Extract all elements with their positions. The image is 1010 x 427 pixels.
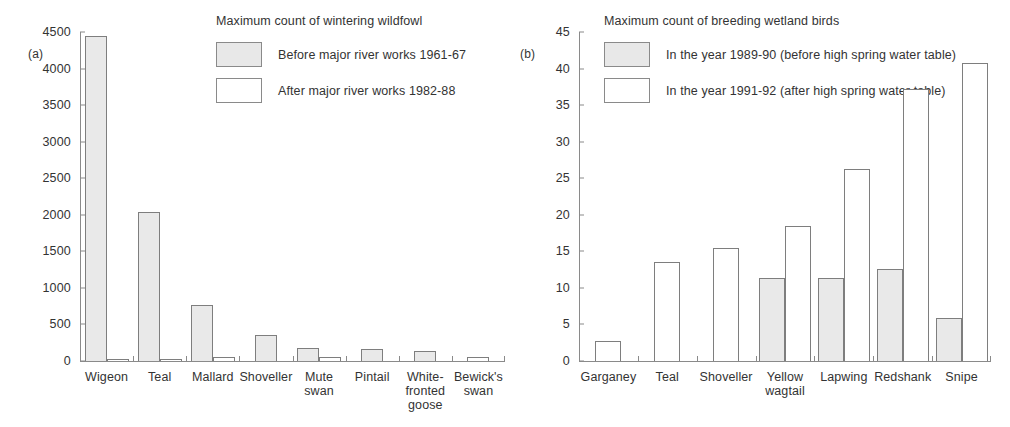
bar [903, 89, 929, 361]
y-axis-tick-label: 0 [64, 354, 80, 368]
x-axis-tick-mark [932, 356, 933, 362]
y-axis-tick-label: 20 [556, 208, 579, 222]
bar-group [697, 32, 756, 361]
y-axis-tick-mark [80, 68, 85, 69]
y-axis-tick-label: 2500 [42, 171, 80, 185]
y-axis-tick-label: 30 [556, 135, 579, 149]
x-axis-label-line: Bewick's [444, 370, 513, 384]
panel-letter-b: (b) [520, 47, 535, 61]
x-axis-tick-mark [293, 356, 294, 362]
bar-group [186, 32, 239, 361]
x-axis-label-line: swan [444, 384, 513, 398]
bar-group [399, 32, 452, 361]
x-axis-label-line: Snipe [924, 370, 999, 384]
chart-panel-a: (a) Maximum count of wintering wildfowl … [0, 0, 512, 427]
y-axis-tick-mark [80, 141, 85, 142]
bar [138, 212, 160, 361]
bar [877, 269, 903, 361]
y-axis-tick-mark [579, 287, 584, 288]
bar-group [579, 32, 638, 361]
y-axis-tick-mark [579, 178, 584, 179]
x-axis-tick-mark [80, 356, 81, 362]
x-axis-tick-mark [452, 356, 453, 362]
y-axis-tick-mark [579, 68, 584, 69]
y-axis-tick-mark [80, 287, 85, 288]
bar-group [873, 32, 932, 361]
y-axis-tick-label: 5 [563, 317, 579, 331]
bar [936, 318, 962, 361]
chart-title-b: Maximum count of breeding wetland birds [604, 14, 839, 28]
y-axis-tick-mark [579, 32, 584, 33]
y-axis-tick-label: 25 [556, 171, 579, 185]
bar-group-container-b [579, 32, 991, 361]
x-axis-label: Snipe [924, 370, 999, 384]
bar [255, 335, 277, 361]
y-axis-tick-mark [579, 251, 584, 252]
y-axis-tick-mark [579, 105, 584, 106]
y-axis-tick-mark [579, 214, 584, 215]
bar [297, 348, 319, 361]
x-axis-tick-mark [756, 356, 757, 362]
bar-group [452, 32, 505, 361]
bar [654, 262, 680, 361]
y-axis-tick-mark [80, 214, 85, 215]
chart-title-a: Maximum count of wintering wildfowl [216, 14, 422, 28]
x-axis-tick-mark [638, 356, 639, 362]
y-axis-tick-mark [80, 105, 85, 106]
x-axis-tick-mark [579, 356, 580, 362]
x-axis-label-line: swan [285, 384, 354, 398]
plot-area-a: 050010001500200025003000350040004500 [80, 32, 505, 362]
x-axis-b [579, 361, 991, 362]
bar [85, 36, 107, 361]
x-axis-tick-mark [399, 356, 400, 362]
y-axis-tick-label: 35 [556, 98, 579, 112]
x-axis-tick-mark [697, 356, 698, 362]
x-axis-tick-mark [186, 356, 187, 362]
x-axis-tick-mark [346, 356, 347, 362]
bar [467, 357, 489, 361]
panel-letter-a: (a) [28, 47, 43, 61]
bar [818, 278, 844, 361]
bar [785, 226, 811, 361]
bar [713, 248, 739, 361]
y-axis-tick-mark [579, 141, 584, 142]
y-axis-tick-mark [80, 324, 85, 325]
bar-group-container-a [80, 32, 505, 361]
x-axis-tick-mark [239, 356, 240, 362]
x-axis-tick-mark [133, 356, 134, 362]
bar-group [80, 32, 133, 361]
bar [844, 169, 870, 361]
y-axis-tick-mark [80, 178, 85, 179]
y-axis-tick-label: 2000 [42, 208, 80, 222]
y-axis-tick-label: 4000 [42, 62, 80, 76]
bar-group [133, 32, 186, 361]
x-axis-tick-mark [504, 356, 505, 362]
bar [107, 359, 129, 361]
x-axis-label-line: goose [391, 398, 460, 412]
bar [595, 341, 621, 361]
y-axis-tick-mark [80, 32, 85, 33]
bar-group [239, 32, 292, 361]
bar-group [346, 32, 399, 361]
y-axis-tick-mark [579, 324, 584, 325]
bar [160, 359, 182, 361]
bar-group [932, 32, 991, 361]
x-axis-label: Bewick'sswan [444, 370, 513, 398]
y-axis-tick-label: 15 [556, 244, 579, 258]
bar [191, 305, 213, 361]
y-axis-tick-label: 40 [556, 62, 579, 76]
y-axis-tick-label: 3000 [42, 135, 80, 149]
bar-group [756, 32, 815, 361]
bar [962, 63, 988, 361]
chart-panel-b: (b) Maximum count of breeding wetland bi… [512, 0, 1010, 427]
bar [759, 278, 785, 361]
x-axis-tick-mark [873, 356, 874, 362]
x-axis-tick-mark [814, 356, 815, 362]
y-axis-tick-label: 4500 [42, 25, 80, 39]
x-axis-tick-mark [990, 356, 991, 362]
y-axis-tick-label: 1500 [42, 244, 80, 258]
y-axis-tick-label: 0 [563, 354, 579, 368]
x-axis-label-line: wagtail [748, 384, 823, 398]
y-axis-tick-label: 45 [556, 25, 579, 39]
bar [361, 349, 383, 361]
